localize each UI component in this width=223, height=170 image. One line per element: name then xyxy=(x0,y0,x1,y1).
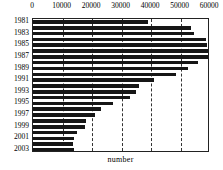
y-tick-label: 1997 xyxy=(14,110,29,118)
bar-row xyxy=(33,73,208,77)
bar[interactable] xyxy=(33,78,154,82)
bar[interactable] xyxy=(33,26,191,30)
bar-row xyxy=(33,148,208,152)
plot-area xyxy=(32,18,209,152)
bar[interactable] xyxy=(33,148,74,152)
bar[interactable] xyxy=(33,67,188,71)
bar-row xyxy=(33,90,208,94)
y-tick-label: 1999 xyxy=(14,122,29,130)
bar-row xyxy=(33,78,208,82)
bar-row xyxy=(33,96,208,100)
y-tick-label: 1993 xyxy=(14,87,29,95)
bars-container xyxy=(33,19,208,151)
bar[interactable] xyxy=(33,55,208,59)
bar[interactable] xyxy=(33,73,176,77)
bar-row xyxy=(33,32,208,36)
bar[interactable] xyxy=(33,38,206,42)
x-tick-label: 40000 xyxy=(141,1,160,11)
bar[interactable] xyxy=(33,20,148,24)
bar[interactable] xyxy=(33,96,130,100)
x-tick-label: 20000 xyxy=(82,1,101,11)
bar-row xyxy=(33,102,208,106)
bar[interactable] xyxy=(33,43,207,47)
bar-row xyxy=(33,113,208,117)
bar-row xyxy=(33,26,208,30)
x-axis-tick-labels: 0100002000030000400005000060000 xyxy=(0,1,223,13)
bar[interactable] xyxy=(33,119,86,123)
bar[interactable] xyxy=(33,107,101,111)
bar-chart: 0100002000030000400005000060000 19811983… xyxy=(0,0,223,170)
bar-row xyxy=(33,84,208,88)
bar-row xyxy=(33,43,208,47)
y-tick-label: 1983 xyxy=(14,29,29,37)
y-tick-label: 1987 xyxy=(14,52,29,60)
bar[interactable] xyxy=(33,61,198,65)
y-tick-label: 1985 xyxy=(14,40,29,48)
bar-row xyxy=(33,119,208,123)
bar[interactable] xyxy=(33,131,77,135)
bar-row xyxy=(33,125,208,129)
bar[interactable] xyxy=(33,32,194,36)
x-tick-label: 0 xyxy=(30,1,34,11)
bar-row xyxy=(33,20,208,24)
x-axis-title: number xyxy=(32,155,209,164)
bar[interactable] xyxy=(33,90,136,94)
bar[interactable] xyxy=(33,102,113,106)
bar-row xyxy=(33,137,208,141)
y-tick-label: 1991 xyxy=(14,75,29,83)
y-tick-label: 2001 xyxy=(14,133,29,141)
x-tick-label: 30000 xyxy=(111,1,130,11)
y-tick-label: 1995 xyxy=(14,98,29,106)
bar-row xyxy=(33,55,208,59)
x-tick-label: 50000 xyxy=(170,1,189,11)
bar-row xyxy=(33,131,208,135)
bar-row xyxy=(33,142,208,146)
bar-row xyxy=(33,67,208,71)
bar[interactable] xyxy=(33,125,85,129)
y-tick-label: 1989 xyxy=(14,64,29,72)
y-tick-label: 2003 xyxy=(14,145,29,153)
bar[interactable] xyxy=(33,113,95,117)
bar[interactable] xyxy=(33,142,73,146)
y-axis-tick-labels: 1981198319851987198919911993199519971999… xyxy=(0,18,31,152)
x-tick-label: 60000 xyxy=(200,1,219,11)
bar-row xyxy=(33,38,208,42)
bar[interactable] xyxy=(33,137,74,141)
bar-row xyxy=(33,61,208,65)
bar-row xyxy=(33,107,208,111)
x-tick-label: 10000 xyxy=(52,1,71,11)
bar[interactable] xyxy=(33,49,209,53)
y-tick-label: 1981 xyxy=(14,17,29,25)
bar-row xyxy=(33,49,208,53)
bar[interactable] xyxy=(33,84,139,88)
